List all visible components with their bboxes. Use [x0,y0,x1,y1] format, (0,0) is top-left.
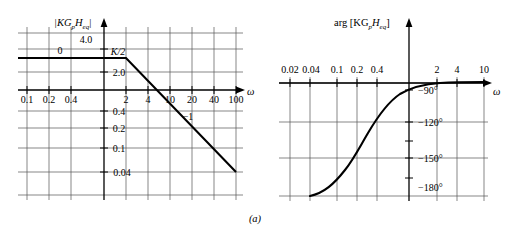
phase-plot: arg [KGpHeq] ω 0.02 0.04 0.1 0.2 0.4 2 4… [279,17,500,201]
phase-xtick-label-2: 0.1 [331,64,344,75]
magnitude-y-axis-label: |KGpHeq| [54,17,91,31]
bode-plot-figure: |KGpHeq| ω 4.0 K/2 2.0 0.4 0.2 0.1 0.04 … [0,0,510,234]
magnitude-ylabel-pre: |KG [54,17,72,28]
phase-ylabel-pre: arg [KG [334,17,369,28]
phase-vertical-gridlines [290,77,484,201]
magnitude-ytick-label-1: K/2 [110,46,125,57]
figure-caption: (a) [249,213,262,225]
magnitude-x-axis [18,87,245,94]
phase-ylabel-post: ] [386,17,390,28]
magnitude-ytick-label-2: 2.0 [113,67,126,78]
magnitude-xtick-label-0: 0.1 [21,94,34,105]
plots-canvas: |KGpHeq| ω 4.0 K/2 2.0 0.4 0.2 0.1 0.04 … [0,0,510,234]
magnitude-curve [18,58,236,172]
phase-xtick-label-1: 0.04 [302,64,320,75]
phase-ytick-label-0: −90° [418,85,438,96]
magnitude-xtick-label-2: 0.4 [65,94,78,105]
phase-ytick-label-1: −120° [418,117,443,128]
phase-xtick-label-7: 10 [479,64,489,75]
phase-xtick-label-4: 0.4 [371,64,384,75]
magnitude-y-axis [101,18,108,200]
magnitude-xtick-label-8: 100 [229,94,244,105]
magnitude-ytick-label-4: 0.2 [113,123,126,134]
phase-x-axis-label: ω [493,86,500,97]
magnitude-ytick-label-0: 4.0 [80,34,93,45]
magnitude-annotation-slope-minus-1: −1 [183,111,194,122]
phase-xtick-label-5: 2 [435,64,440,75]
magnitude-ytick-label-3: 0.4 [113,106,126,117]
magnitude-xtick-label-7: 40 [209,94,219,105]
magnitude-xtick-label-5: 10 [165,94,175,105]
magnitude-plot: |KGpHeq| ω 4.0 K/2 2.0 0.4 0.2 0.1 0.04 … [18,17,254,200]
magnitude-ytick-label-5: 0.1 [113,143,126,154]
magnitude-annotation-slope-0: 0 [58,45,63,56]
phase-y-axis [406,18,413,201]
magnitude-xtick-label-6: 20 [187,94,197,105]
magnitude-x-axis-label: ω [247,86,254,97]
magnitude-xtick-label-3: 2 [124,94,129,105]
phase-xtick-label-6: 4 [455,64,460,75]
phase-curve [310,82,484,196]
phase-xtick-label-3: 0.2 [351,64,364,75]
phase-y-axis-label: arg [KGpHeq] [334,17,390,31]
magnitude-xtick-label-1: 0.2 [43,94,56,105]
magnitude-ylabel-post: | [89,17,91,28]
phase-ytick-label-3: −180° [418,182,443,193]
magnitude-ytick-label-6: 0.04 [113,167,131,178]
phase-ytick-label-2: −150° [418,153,443,164]
magnitude-xtick-label-4: 4 [146,94,151,105]
phase-xtick-label-0: 0.02 [281,64,299,75]
